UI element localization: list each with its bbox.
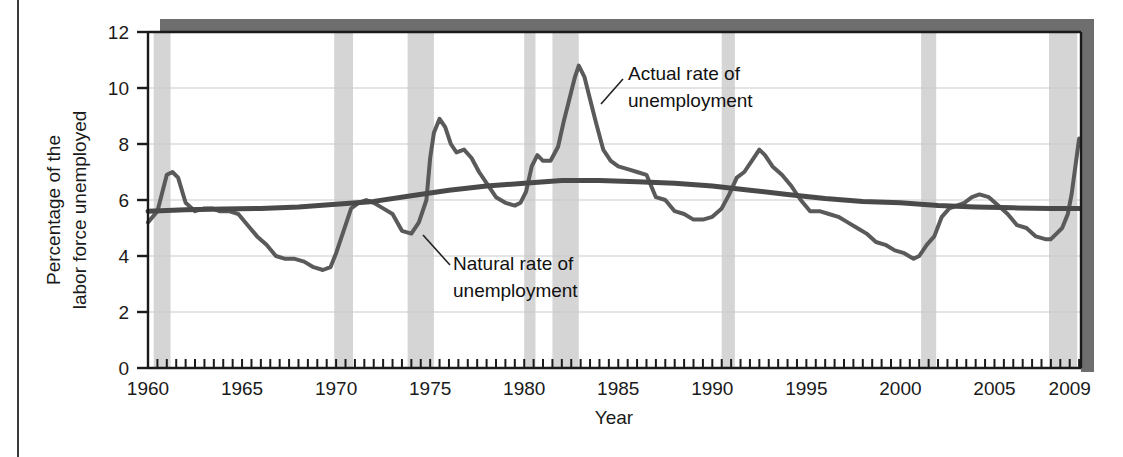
y-tick-label-12: 12 <box>108 22 129 43</box>
x-tick-label-1970: 1970 <box>315 378 357 399</box>
x-tick-label-1990: 1990 <box>691 378 733 399</box>
x-tick-label-1975: 1975 <box>409 378 451 399</box>
y-tick-label-0: 0 <box>118 358 129 379</box>
y-axis-title: Percentage of the labor force unemployed <box>43 111 90 310</box>
x-axis-tick-labels: 1960196519701975198019851990199520002005… <box>127 378 1091 399</box>
y-axis-ticks: 024681012 <box>108 22 148 379</box>
x-tick-label-1965: 1965 <box>221 378 263 399</box>
x-axis-title: Year <box>595 407 634 428</box>
y-axis-title-line2: labor force unemployed <box>69 111 90 310</box>
x-tick-label-1960: 1960 <box>127 378 169 399</box>
y-tick-label-6: 6 <box>118 190 129 211</box>
x-tick-label-2005: 2005 <box>973 378 1015 399</box>
y-tick-label-8: 8 <box>118 134 129 155</box>
x-tick-label-2000: 2000 <box>879 378 921 399</box>
y-axis-title-line1: Percentage of the <box>43 135 64 285</box>
natural-rate-label-line1: Natural rate of <box>453 253 574 274</box>
y-tick-label-4: 4 <box>118 246 129 267</box>
x-tick-label-1995: 1995 <box>785 378 827 399</box>
chart-canvas: 024681012 196019651970197519801985199019… <box>0 0 1123 457</box>
x-tick-label-2009: 2009 <box>1049 378 1091 399</box>
y-tick-label-2: 2 <box>118 302 129 323</box>
x-tick-label-1985: 1985 <box>597 378 639 399</box>
x-tick-label-1980: 1980 <box>503 378 545 399</box>
unemployment-chart-figure: 024681012 196019651970197519801985199019… <box>0 0 1123 457</box>
y-tick-label-10: 10 <box>108 78 129 99</box>
actual-rate-label-line2: unemployment <box>628 90 753 111</box>
natural-rate-label-line2: unemployment <box>453 280 578 301</box>
actual-rate-label-line1: Actual rate of <box>628 63 741 84</box>
